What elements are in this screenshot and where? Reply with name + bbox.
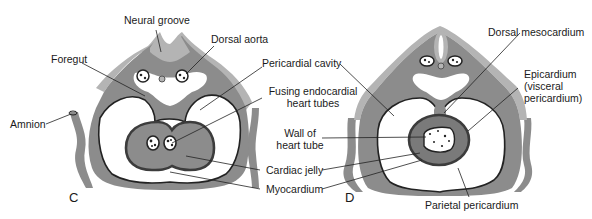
d-notochord <box>438 63 444 69</box>
c-endocardial-tube-right <box>164 136 176 150</box>
c-notochord <box>159 76 165 82</box>
label-dorsal-aorta-c: Dorsal aorta <box>211 33 268 45</box>
label-wall-line1: Wall of <box>270 127 330 139</box>
label-epicardium-line2: (visceral <box>524 80 582 92</box>
c-endocardial-tube-left <box>147 136 159 150</box>
diagram-stage: Neural groove Dorsal aorta Foregut Amnio… <box>0 0 592 219</box>
label-fusing-line1: Fusing endocardial <box>254 85 372 97</box>
label-parietal-pericardium: Parietal pericardium <box>425 199 518 211</box>
label-epicardium-line3: pericardium) <box>524 92 582 104</box>
c-dorsal-aorta-left <box>137 70 149 82</box>
label-neural-groove: Neural groove <box>124 14 190 26</box>
label-myocardium: Myocardium <box>266 183 323 195</box>
c-amnion-right <box>248 108 259 188</box>
label-foregut: Foregut <box>51 53 87 65</box>
d-neural-canal <box>439 35 444 59</box>
c-dorsal-aorta-right <box>176 70 188 82</box>
d-dorsal-aorta-left <box>420 56 434 66</box>
label-pericardial-cavity: Pericardial cavity <box>262 57 341 69</box>
label-dorsal-mesocardium: Dorsal mesocardium <box>488 26 584 38</box>
label-wall-of-heart-tube: Wall of heart tube <box>270 127 330 151</box>
label-fusing-endocardial-tubes: Fusing endocardial heart tubes <box>254 85 372 109</box>
d-endocardium <box>424 127 455 152</box>
label-epicardium: Epicardium (visceral pericardium) <box>524 68 582 104</box>
panel-letter-c: C <box>69 190 78 205</box>
label-amnion: Amnion <box>10 118 46 130</box>
d-dorsal-aorta-right <box>448 56 462 66</box>
label-wall-line2: heart tube <box>270 139 330 151</box>
label-epicardium-line1: Epicardium <box>524 68 582 80</box>
panel-letter-d: D <box>345 190 354 205</box>
panel-d-section <box>343 26 532 196</box>
label-cardiac-jelly: Cardiac jelly <box>266 164 323 176</box>
label-fusing-line2: heart tubes <box>254 97 372 109</box>
panel-c-section <box>69 32 259 190</box>
